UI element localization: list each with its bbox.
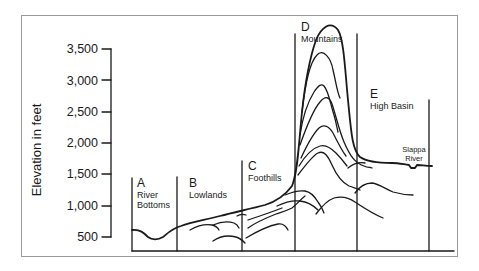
- river-label: Slappa River: [398, 145, 430, 163]
- river-label-line1: Slappa: [398, 145, 430, 154]
- region-e-letter: E: [370, 88, 378, 101]
- ridge-9: [316, 197, 383, 218]
- region-a-name-line2: Bottoms: [137, 200, 170, 210]
- elevation-profile: [0, 0, 479, 271]
- river-label-line2: River: [398, 154, 430, 163]
- ridge-6: [298, 152, 360, 190]
- region-a-name-line1: River: [137, 190, 158, 200]
- region-e-name: High Basin: [370, 101, 414, 111]
- region-b-letter: B: [189, 177, 197, 190]
- ridge-18: [213, 236, 245, 243]
- ridge-13: [246, 224, 288, 238]
- region-c-letter: C: [248, 160, 257, 173]
- ridge-10: [355, 183, 413, 195]
- region-a-letter: A: [137, 177, 145, 190]
- region-d-name: Mountains: [301, 34, 343, 44]
- region-c-name: Foothills: [248, 173, 282, 183]
- ridge-16: [190, 225, 219, 230]
- region-d-letter: D: [301, 21, 310, 34]
- region-b-name: Lowlands: [189, 190, 227, 200]
